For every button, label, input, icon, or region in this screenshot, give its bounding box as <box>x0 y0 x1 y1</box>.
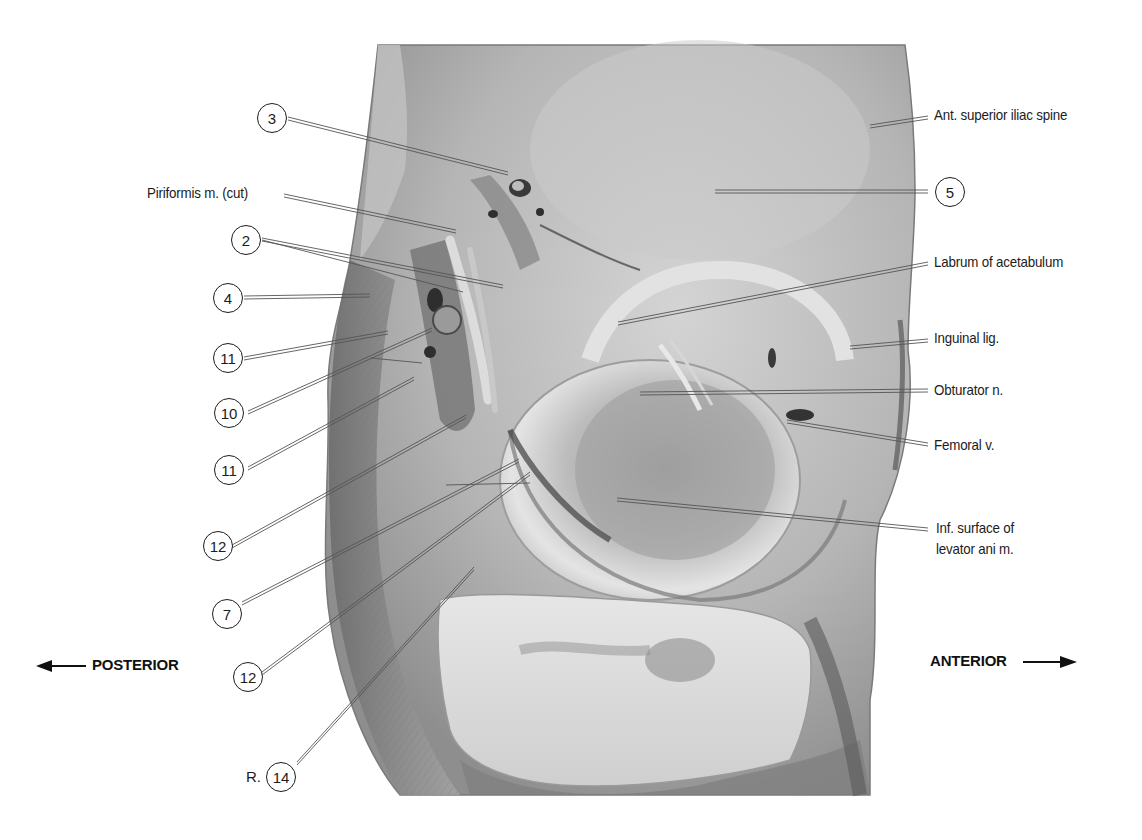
specimen-image <box>0 0 1142 840</box>
callout-2: 2 <box>231 225 261 255</box>
callout-14: 14 <box>266 762 296 792</box>
callout-7: 7 <box>212 599 242 629</box>
label-femoral-v: Femoral v. <box>934 437 994 454</box>
callout-11-lower: 11 <box>214 455 244 485</box>
orientation-posterior: POSTERIOR <box>92 656 179 673</box>
callout-5: 5 <box>935 177 965 207</box>
arrow-right-icon <box>1023 655 1077 669</box>
arrow-left-icon <box>36 659 88 673</box>
orientation-anterior: ANTERIOR <box>930 652 1007 669</box>
callout-14-prefix: R. <box>246 768 261 785</box>
label-obturator-n: Obturator n. <box>934 382 1003 399</box>
callout-4: 4 <box>213 283 243 313</box>
label-labrum-of-acetabulum: Labrum of acetabulum <box>934 254 1063 271</box>
label-inf-surface-levator-ani-line1: Inf. surface of <box>936 520 1014 537</box>
callout-10: 10 <box>214 398 244 428</box>
label-inf-surface-levator-ani-line2: levator ani m. <box>936 541 1014 558</box>
callout-12-lower: 12 <box>233 662 263 692</box>
callout-11-upper: 11 <box>213 343 243 373</box>
label-inguinal-lig: Inguinal lig. <box>934 330 999 347</box>
callout-3: 3 <box>257 103 287 133</box>
label-piriformis-m-cut: Piriformis m. (cut) <box>147 185 248 202</box>
callout-12-upper: 12 <box>203 531 233 561</box>
anatomy-figure: Ant. superior iliac spine 5 Labrum of ac… <box>0 0 1142 840</box>
label-ant-superior-iliac-spine: Ant. superior iliac spine <box>934 107 1067 124</box>
